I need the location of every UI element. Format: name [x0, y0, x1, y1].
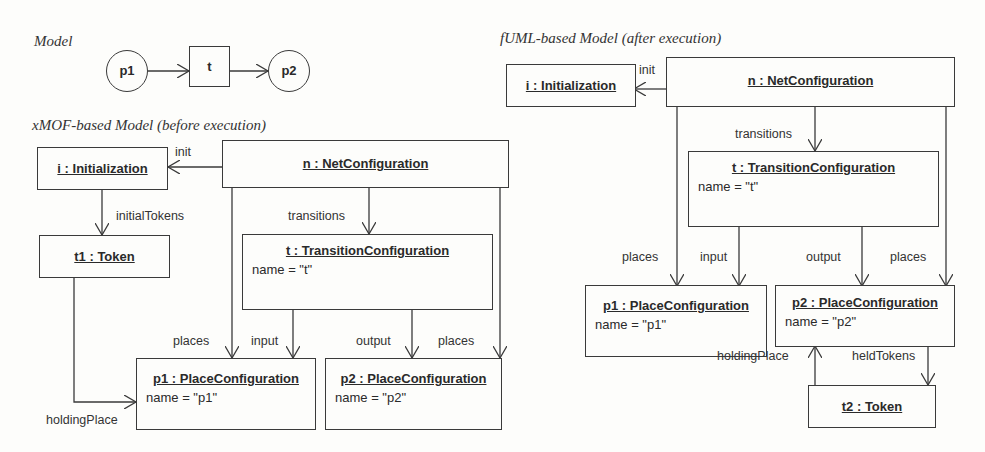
object-title: t2 : Token	[809, 399, 935, 414]
fuml-place-p2-object: p2 : PlaceConfiguration name = "p2"	[775, 285, 955, 347]
link-label-output: output	[806, 250, 841, 264]
object-title: p1 : PlaceConfiguration	[137, 371, 315, 386]
fuml-place-p1-object: p1 : PlaceConfiguration name = "p1"	[585, 285, 767, 357]
link-label-holding-place: holdingPlace	[717, 349, 789, 363]
object-title: n : NetConfiguration	[667, 73, 954, 88]
petri-transition-t: t	[189, 46, 230, 87]
link-label-init: init	[639, 63, 655, 77]
object-title: p2 : PlaceConfiguration	[776, 295, 954, 310]
link-label-transitions: transitions	[735, 127, 792, 141]
heading-xmof-model: xMOF-based Model (before execution)	[32, 117, 266, 134]
link-label-places: places	[890, 250, 926, 264]
object-attribute: name = "p2"	[785, 314, 954, 329]
link-label-init: init	[175, 145, 191, 159]
heading-model: Model	[34, 33, 72, 50]
object-title: p1 : PlaceConfiguration	[586, 298, 766, 313]
object-title: i : Initialization	[38, 161, 167, 176]
fuml-netconfiguration-object: n : NetConfiguration	[666, 57, 955, 107]
xmof-place-p1-object: p1 : PlaceConfiguration name = "p1"	[136, 358, 316, 430]
link-label-initial-tokens: initialTokens	[116, 209, 184, 223]
link-label-held-tokens: heldTokens	[852, 349, 915, 363]
link-label-places: places	[622, 250, 658, 264]
petri-place-p1: p1	[106, 50, 148, 92]
object-title: t : TransitionConfiguration	[689, 160, 938, 175]
xmof-place-p2-object: p2 : PlaceConfiguration name = "p2"	[325, 358, 502, 430]
object-attribute: name = "p1"	[595, 317, 766, 332]
link-label-output: output	[356, 334, 391, 348]
object-title: i : Initialization	[507, 78, 635, 93]
object-title: p2 : PlaceConfiguration	[326, 371, 501, 386]
link-label-holding-place: holdingPlace	[46, 413, 118, 427]
object-attribute: name = "p2"	[335, 390, 501, 405]
object-attribute: name = "t"	[252, 262, 492, 277]
link-label-input: input	[700, 250, 727, 264]
link-label-places: places	[438, 334, 474, 348]
xmof-netconfiguration-object: n : NetConfiguration	[222, 140, 509, 188]
xmof-token-object: t1 : Token	[39, 235, 170, 278]
heading-fuml-model: fUML-based Model (after execution)	[500, 30, 721, 47]
object-title: t1 : Token	[40, 249, 169, 264]
object-title: t : TransitionConfiguration	[243, 243, 492, 258]
fuml-initialization-object: i : Initialization	[506, 64, 636, 107]
petri-place-p2: p2	[268, 50, 310, 92]
object-title: n : NetConfiguration	[223, 156, 508, 171]
link-label-input: input	[251, 334, 278, 348]
fuml-token-object: t2 : Token	[808, 385, 936, 428]
link-label-places: places	[173, 334, 209, 348]
object-attribute: name = "t"	[698, 179, 938, 194]
link-label-transitions: transitions	[288, 209, 345, 223]
xmof-initialization-object: i : Initialization	[37, 147, 168, 190]
object-attribute: name = "p1"	[146, 390, 315, 405]
xmof-transitionconfiguration-object: t : TransitionConfiguration name = "t"	[242, 234, 493, 310]
fuml-transitionconfiguration-object: t : TransitionConfiguration name = "t"	[688, 151, 939, 227]
